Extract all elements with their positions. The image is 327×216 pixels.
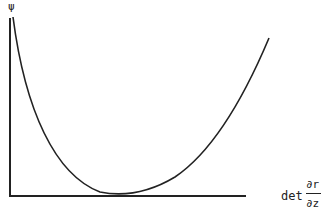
x-axis-label: det — [281, 189, 303, 203]
y-axis-label: ψ — [8, 0, 15, 13]
curve — [13, 17, 269, 194]
fraction-denominator: ∂z — [306, 197, 319, 210]
plot-area — [0, 0, 327, 216]
fraction-bar — [306, 193, 321, 194]
diagram: ψ det ∂r ∂z — [0, 0, 327, 216]
fraction-numerator: ∂r — [306, 178, 319, 191]
